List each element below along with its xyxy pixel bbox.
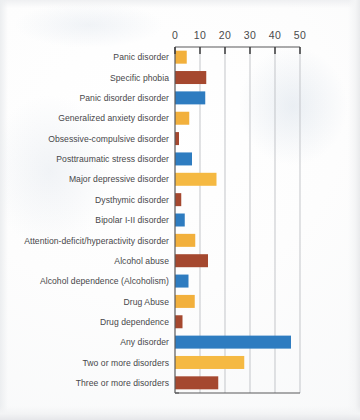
bar-17 (175, 376, 218, 389)
scanned-page: 01020304050 Panic disorderSpecific phobi… (0, 0, 360, 420)
category-label: Posttraumatic stress disorder (56, 154, 169, 164)
x-tick-labels-group: 01020304050 (172, 29, 306, 41)
x-tick-label: 30 (244, 29, 256, 41)
category-label: Dysthymic disorder (95, 195, 169, 205)
category-label: Panic disorder (113, 52, 169, 62)
bar-14 (175, 315, 183, 328)
bar-12 (175, 275, 189, 288)
category-label: Attention-deficit/hyperactivity disorder (24, 236, 169, 246)
bar-chart: 01020304050 Panic disorderSpecific phobi… (0, 0, 360, 420)
x-tick-label: 0 (172, 29, 178, 41)
category-label: Alcohol dependence (Alcoholism) (40, 276, 169, 286)
bar-11 (175, 254, 208, 267)
category-label: Bipolar I-II disorder (95, 215, 169, 225)
bar-2 (175, 71, 206, 84)
bar-4 (175, 112, 189, 125)
bar-9 (175, 214, 185, 227)
bar-16 (175, 356, 244, 369)
chart-svg: 01020304050 Panic disorderSpecific phobi… (0, 0, 360, 420)
category-label: Obsessive-compulsive disorder (48, 134, 169, 144)
category-label: Panic disorder disorder (79, 93, 169, 103)
category-labels-group: Panic disorderSpecific phobiaPanic disor… (24, 52, 169, 388)
category-label: Major depressive disorder (69, 174, 169, 184)
category-label: Any disorder (120, 337, 169, 347)
category-label: Alcohol abuse (114, 256, 169, 266)
bar-10 (175, 234, 195, 247)
bar-7 (175, 173, 217, 186)
category-label: Three or more disorders (76, 378, 169, 388)
x-tick-label: 40 (269, 29, 281, 41)
x-tick-label: 20 (219, 29, 231, 41)
category-label: Drug dependence (100, 317, 169, 327)
category-label: Specific phobia (110, 73, 169, 83)
bar-6 (175, 152, 192, 165)
category-label: Drug Abuse (124, 297, 170, 307)
bar-5 (175, 132, 179, 145)
bar-1 (175, 51, 187, 64)
bar-8 (175, 193, 181, 206)
category-label: Generalized anxiety disorder (58, 113, 169, 123)
bars-group (175, 51, 291, 390)
bar-15 (175, 336, 291, 349)
x-tick-label: 10 (194, 29, 206, 41)
bar-13 (175, 295, 195, 308)
x-tick-label: 50 (294, 29, 306, 41)
bar-3 (175, 91, 205, 104)
category-label: Two or more disorders (82, 358, 169, 368)
